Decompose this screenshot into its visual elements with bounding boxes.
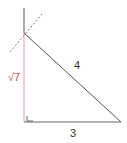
hypotenuse — [24, 33, 121, 122]
base-label: 3 — [70, 128, 76, 139]
hypotenuse-label: 4 — [74, 60, 80, 71]
right-angle-marker — [27, 116, 33, 121]
vertical-leg-label: √7 — [8, 72, 20, 83]
dashed-arc-line — [10, 14, 42, 52]
